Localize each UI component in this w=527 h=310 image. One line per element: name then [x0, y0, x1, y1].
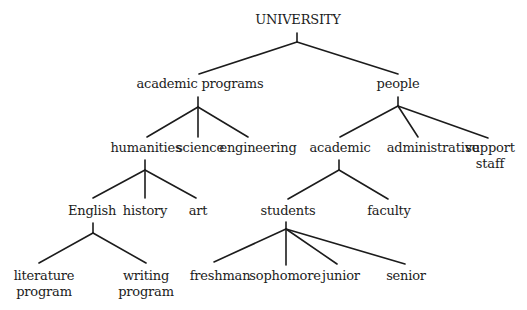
edge-academic-programs-to-humanities	[147, 107, 198, 137]
node-science: science	[176, 140, 224, 156]
junction-english	[39, 223, 146, 263]
edge-students-to-freshman	[214, 229, 286, 262]
edge-university-to-academic-programs	[199, 42, 297, 74]
edge-academic-programs-to-engineering	[198, 107, 248, 137]
junction-students	[214, 222, 405, 265]
edge-students-to-junior	[286, 229, 337, 264]
edge-students-to-senior	[286, 229, 405, 264]
node-junior: junior	[322, 268, 360, 284]
node-students: students	[261, 203, 316, 219]
edge-people-to-academic	[340, 106, 398, 137]
node-label: science	[176, 140, 224, 156]
junction-academic-programs	[147, 97, 248, 137]
node-support-staff: supportstaff	[465, 140, 515, 172]
node-label: staff	[465, 156, 515, 172]
node-label: English	[68, 203, 116, 219]
node-faculty: faculty	[367, 203, 411, 219]
node-label: senior	[386, 268, 426, 284]
node-sophomore: sophomore	[249, 268, 320, 284]
node-label: people	[377, 76, 420, 92]
node-people: people	[377, 76, 420, 92]
university-tree-diagram: UNIVERSITYacademic programspeoplehumanit…	[0, 0, 527, 310]
edge-english-to-writing-program	[93, 233, 146, 263]
node-english: English	[68, 203, 116, 219]
node-label: faculty	[367, 203, 411, 219]
node-university: UNIVERSITY	[255, 12, 340, 28]
node-label: humanities	[110, 140, 181, 156]
edge-humanities-to-art	[145, 170, 196, 198]
junction-university	[199, 33, 398, 74]
node-art: art	[189, 203, 208, 219]
node-writing-program: writingprogram	[118, 268, 174, 300]
edge-academic-to-students	[288, 170, 339, 199]
edge-people-to-support-staff	[398, 106, 488, 138]
node-label: history	[123, 203, 167, 219]
node-label: academic programs	[137, 76, 264, 92]
node-label: students	[261, 203, 316, 219]
node-academic-programs: academic programs	[137, 76, 264, 92]
node-senior: senior	[386, 268, 426, 284]
node-engineering: engineering	[219, 140, 296, 156]
junction-people	[340, 97, 488, 138]
edge-people-to-administrative	[398, 106, 418, 137]
node-label: sophomore	[249, 268, 320, 284]
edge-academic-to-faculty	[339, 170, 388, 199]
node-label: engineering	[219, 140, 296, 156]
edge-english-to-literature-program	[39, 233, 93, 263]
node-label: literature	[14, 268, 75, 284]
node-history: history	[123, 203, 167, 219]
node-freshman: freshman	[190, 268, 251, 284]
junction-academic	[288, 160, 388, 199]
node-academic: academic	[310, 140, 371, 156]
edge-humanities-to-english	[93, 170, 145, 198]
junction-humanities	[93, 160, 196, 198]
node-label: program	[118, 284, 174, 300]
node-literature-program: literatureprogram	[14, 268, 75, 300]
node-label: academic	[310, 140, 371, 156]
node-label: support	[465, 140, 515, 156]
node-humanities: humanities	[110, 140, 181, 156]
node-label: art	[189, 203, 208, 219]
node-label: writing	[118, 268, 174, 284]
node-label: freshman	[190, 268, 251, 284]
node-label: program	[14, 284, 75, 300]
node-label: UNIVERSITY	[255, 12, 340, 28]
node-label: junior	[322, 268, 360, 284]
edge-university-to-people	[297, 42, 398, 74]
